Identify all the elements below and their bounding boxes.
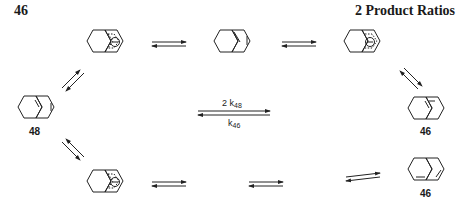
label-48: 48 [29, 126, 40, 137]
rate-forward: 2 k48 [222, 98, 242, 109]
rate-reverse: k46 [228, 118, 240, 129]
compound-48-structure [18, 96, 54, 118]
anion-top-right-structure [344, 30, 380, 52]
anion-bottom-left-structure [87, 170, 123, 192]
diene-top-center-structure [214, 30, 250, 52]
compound-46-upper-structure [408, 97, 444, 119]
label-46-upper: 46 [420, 126, 431, 137]
label-46-lower: 46 [420, 188, 431, 199]
reaction-scheme: 2 k48 k46 [0, 0, 467, 213]
compound-46-lower-structure [408, 158, 444, 180]
anion-top-left-structure [87, 30, 123, 52]
